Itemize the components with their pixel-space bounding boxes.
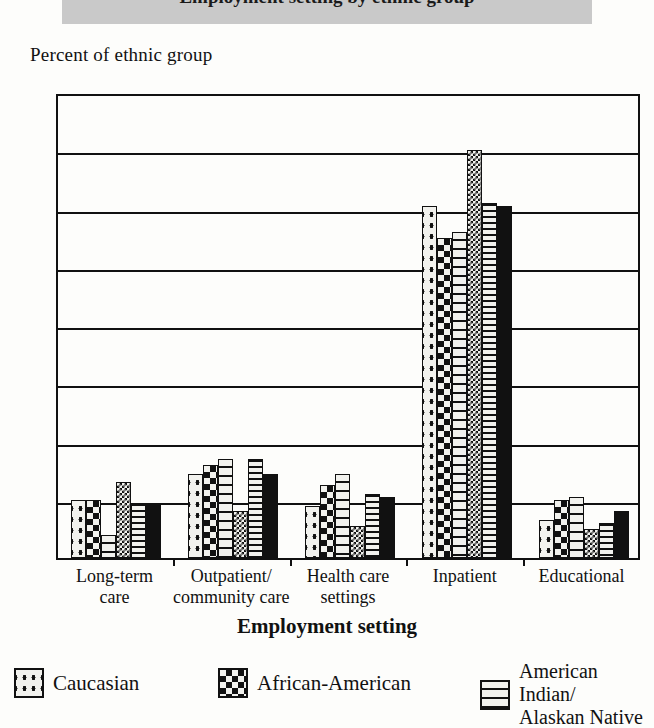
chart-title: Employment setting by ethnic group [62,0,592,8]
bar [599,523,614,558]
bar [380,497,395,558]
bar-group [292,96,409,558]
y-axis-label: Percent of ethnic group [30,44,212,66]
bar-groups [58,96,638,558]
bar [71,500,86,558]
bar [365,494,380,558]
chart-title-banner: Employment setting by ethnic group [62,0,592,24]
checkerboard-icon [218,668,248,698]
bar [422,206,437,558]
bar [146,503,161,558]
bar [131,503,146,558]
bar-group [525,96,642,558]
bar [188,474,203,558]
legend-item[interactable]: African-American [218,668,411,698]
bar [305,506,320,558]
x-axis-title: Employment setting [0,614,654,639]
bar [233,511,248,558]
dots-icon [14,668,44,698]
bar [335,474,350,558]
legend-label: American Indian/Alaskan Native [519,660,654,728]
bar [86,500,101,558]
bar [482,203,497,558]
bar [218,459,233,558]
bar [452,232,467,558]
bar [437,238,452,558]
legend-item[interactable]: American Indian/Alaskan Native [480,660,654,728]
bar-group [408,96,525,558]
bar [497,206,512,558]
bar [350,526,365,558]
bar [467,150,482,558]
bar-group [58,96,175,558]
x-axis-labels: Long-termcareOutpatient/community careHe… [56,566,640,612]
bar [101,535,116,558]
legend-label: Caucasian [53,671,139,695]
bar [554,500,569,558]
bar [116,482,131,558]
legend-item[interactable]: Caucasian [14,668,139,698]
bar [248,459,263,558]
bar-group [175,96,292,558]
dashes-icon [480,680,510,710]
bar [539,520,554,558]
chart-legend: CaucasianAfrican-AmericanAmerican Indian… [0,660,654,722]
bar [569,497,584,558]
legend-label: African-American [257,671,411,695]
bar [263,474,278,558]
bar [203,465,218,558]
plot-area [56,94,640,560]
x-tick-label: Educational [513,566,650,587]
bar [584,529,599,558]
bar [614,511,629,558]
bar [320,485,335,558]
